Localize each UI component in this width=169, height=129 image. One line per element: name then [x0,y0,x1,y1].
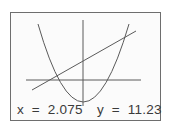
linear-curve [32,31,136,90]
coordinate-readout: x = 2.075 y = 11.23 [10,100,161,120]
y-coordinate: y = 11.23 [97,102,162,117]
x-coordinate: x = 2.075 [17,102,83,117]
